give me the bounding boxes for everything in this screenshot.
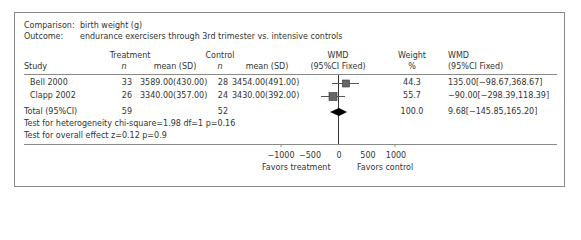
tick-label: 500 [356, 151, 380, 161]
point-box-bell-2000 [343, 80, 350, 87]
point-box-clapp-2002 [329, 93, 337, 101]
pooled-diamond [330, 108, 347, 116]
favors-treatment-label: Favors treatment [262, 163, 331, 173]
tick-label: 1000 [382, 151, 410, 161]
favors-control-label: Favors control [357, 163, 413, 173]
tick-label: 0 [332, 151, 346, 161]
tick-label: −500 [298, 151, 322, 161]
tick-label: −1000 [266, 151, 296, 161]
